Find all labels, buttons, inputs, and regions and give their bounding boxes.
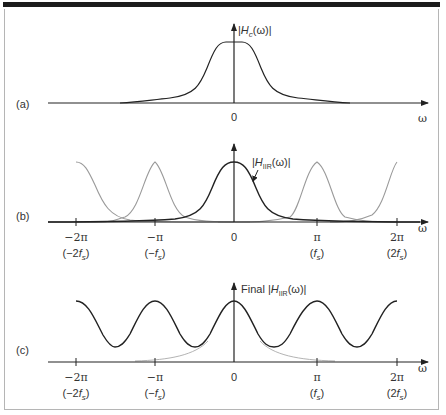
zero-label: 0 [231,111,237,123]
svg-text:(−2fs): (−2fs) [63,387,90,402]
omega-label: ω [418,112,427,125]
svg-text:0: 0 [231,231,237,243]
original-tail-left [135,341,208,361]
svg-text:π: π [313,371,320,384]
omega-label: ω [418,362,427,375]
final-hiir-label: Final |HIIR(ω)| [241,283,306,297]
svg-text:(−fs): (−fs) [145,247,166,262]
svg-text:−2π: −2π [64,231,87,244]
hiir-label: |HIIR(ω)| [252,156,291,170]
svg-text:−2π: −2π [64,371,87,384]
panel-c-tag: (c) [16,344,29,356]
omega-label: ω [418,222,427,235]
panel-a-tag: (a) [16,98,29,110]
svg-text:π: π [313,231,320,244]
pointer-arrow [253,170,258,181]
figure-svg: (a) 0 ω |Hc(ω)| (b) |HIIR(ω)| ω −2π [0,0,446,415]
svg-text:0: 0 [231,371,237,383]
tick-labels: −2π −π 0 π 2π (−2fs) (−fs) (fs) (2fs) [63,231,408,262]
svg-text:2π: 2π [390,231,404,244]
analog-response-curve [120,42,350,103]
tick-labels: −2π −π 0 π 2π (−2fs) (−fs) (fs) (2fs) [63,371,408,402]
svg-text:−π: −π [147,231,163,244]
hc-label: |Hc(ω)| [238,24,272,39]
svg-text:−π: −π [147,371,163,384]
svg-text:(2fs): (2fs) [387,247,408,262]
spectral-images [76,162,397,222]
panel-b: (b) |HIIR(ω)| ω −2π −π 0 π 2π (−2fs) (−f… [16,144,428,262]
svg-text:(−2fs): (−2fs) [63,247,90,262]
svg-text:(fs): (fs) [310,247,324,262]
svg-text:(2fs): (2fs) [387,387,408,402]
original-tail-right [260,341,335,361]
svg-text:(−fs): (−fs) [145,387,166,402]
final-iir-response-curve [76,301,397,347]
svg-text:2π: 2π [390,371,404,384]
svg-text:(fs): (fs) [310,387,324,402]
panel-b-tag: (b) [16,210,29,222]
panel-a: (a) 0 ω |Hc(ω)| [16,24,428,125]
panel-c: (c) Final |HIIR(ω)| ω −2π −π 0 π 2π (−2f… [16,283,428,402]
